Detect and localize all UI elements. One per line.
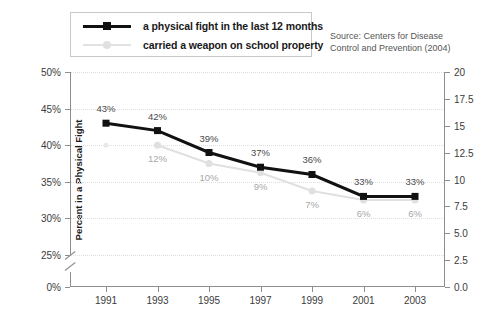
legend-entry-physical-fight: a physical fight in the last 12 months (79, 18, 323, 34)
legend-entry-carried-weapon: carried a weapon on school property (79, 37, 323, 53)
series-plot (70, 72, 445, 287)
y2-axis-tick-label: 0.0 (454, 282, 468, 293)
x-axis-tick (158, 287, 159, 292)
y2-axis-tick (445, 72, 450, 73)
x-axis-tick (209, 287, 210, 292)
source-line-1: Source: Centers for Disease (330, 30, 490, 42)
x-axis-tick (261, 287, 262, 292)
x-axis-tick-label: 1993 (146, 295, 168, 306)
y2-axis-tick (445, 126, 450, 127)
x-axis-tick (364, 287, 365, 292)
y2-axis-tick-label: 5.0 (454, 228, 468, 239)
circle-marker (154, 142, 161, 149)
source-line-2: Control and Prevention (2004) (330, 42, 490, 54)
circle-marker (309, 188, 316, 195)
series-line (158, 145, 416, 200)
square-marker (309, 171, 316, 178)
y2-axis-tick (445, 287, 450, 288)
y2-axis-tick-label: 12.5 (454, 147, 473, 158)
y2-axis-tick (445, 180, 450, 181)
legend-swatch-square-marker (79, 19, 135, 33)
y2-axis-tick-label: 15 (454, 120, 465, 131)
x-axis-tick-label: 1995 (198, 295, 220, 306)
y2-axis-tick-label: 10 (454, 174, 465, 185)
y-axis-tick-label: 50% (41, 67, 61, 78)
x-axis-tick (106, 287, 107, 292)
circle-marker (206, 160, 213, 167)
y-axis-tick (65, 287, 70, 288)
source-note: Source: Centers for Disease Control and … (330, 30, 490, 54)
y2-axis-tick (445, 260, 450, 261)
y2-axis-tick-label: 17.5 (454, 93, 473, 104)
chart-figure: a physical fight in the last 12 months c… (0, 0, 491, 336)
y-axis-tick-label: 25% (41, 250, 61, 261)
y-axis-tick-label: 40% (41, 140, 61, 151)
x-axis-tick-label: 2003 (404, 295, 426, 306)
y2-axis-tick (445, 206, 450, 207)
legend-swatch-circle-marker (79, 38, 135, 52)
circle-marker (104, 143, 109, 148)
y-axis-tick-label: 30% (41, 213, 61, 224)
chart-legend: a physical fight in the last 12 months c… (70, 12, 312, 57)
y-axis-tick-label: 35% (41, 176, 61, 187)
x-axis-tick (415, 287, 416, 292)
x-axis-tick-label: 1999 (301, 295, 323, 306)
legend-label-carried-weapon: carried a weapon on school property (143, 39, 323, 51)
square-marker (206, 149, 213, 156)
plot-area: Percent in a Physical Fight 50%45%40%35%… (70, 72, 445, 287)
y2-axis-tick-label: 7.5 (454, 201, 468, 212)
y2-axis-tick (445, 233, 450, 234)
x-axis-tick (312, 287, 313, 292)
y2-axis-tick (445, 153, 450, 154)
square-marker (103, 120, 110, 127)
y2-axis-tick-label: 20 (454, 67, 465, 78)
x-axis-tick-label: 2001 (352, 295, 374, 306)
x-axis-tick-label: 1991 (95, 295, 117, 306)
y-axis-tick-label: 45% (41, 103, 61, 114)
legend-label-physical-fight: a physical fight in the last 12 months (143, 20, 323, 32)
y2-axis-tick (445, 99, 450, 100)
square-marker (360, 193, 367, 200)
y2-axis-tick-label: 2.5 (454, 255, 468, 266)
series-line (106, 123, 415, 196)
square-marker (257, 164, 264, 171)
x-axis-tick-label: 1997 (249, 295, 271, 306)
square-marker (412, 193, 419, 200)
y-axis-tick-label-zero: 0% (47, 282, 61, 293)
square-marker (154, 127, 161, 134)
